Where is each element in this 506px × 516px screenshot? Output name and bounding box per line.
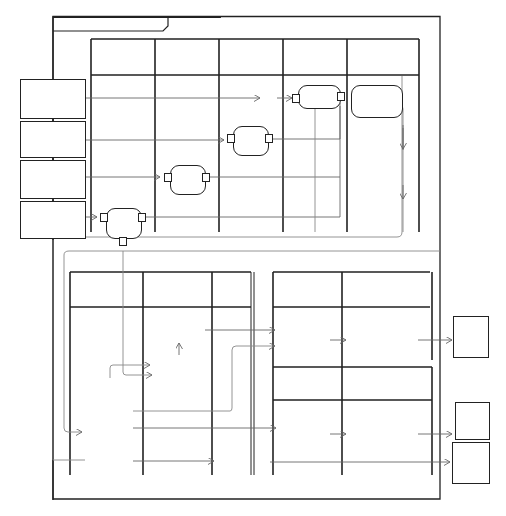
partition-alarm [212,272,251,307]
partition-external-sensor [91,39,155,75]
diagram-edges [0,0,506,516]
partition-system-controller [70,272,143,307]
pin-sense-entry-in [164,173,172,182]
param-exit-window-door-state[interactable] [20,79,86,119]
pin-sense-external-sensed-output [119,237,127,246]
pin-sense-internal-in [227,134,235,143]
action-sense-entry[interactable] [170,165,206,195]
pin-sense-external-out [138,213,146,222]
action-process-intruder-detection[interactable] [351,85,403,118]
partition-occupant-if-mgr [342,367,432,400]
param-entry-window-door-state[interactable] [20,160,86,199]
pin-sense-external-in [100,213,108,222]
pin-sense-exit-out [337,92,345,101]
partition-site-status-mgr [273,367,342,400]
partition-alert-validation-mgr [273,272,342,307]
pin-sense-exit-in [292,94,300,103]
partition-emergency-services-if-mgr [342,272,432,307]
param-external-source-signature[interactable] [20,201,86,239]
partition-event-detection-mgr [347,39,419,75]
param-alarm-signal[interactable] [452,442,490,484]
partition-internal-sensor [219,39,283,75]
action-sense-exit[interactable] [298,85,341,109]
partition-exit-sensor [283,39,347,75]
pin-sense-entry-out [202,173,210,182]
param-internal-source-signature[interactable] [20,121,86,158]
action-sense-internal[interactable] [233,126,269,156]
action-sense-external[interactable] [106,208,142,239]
param-site-status[interactable] [455,402,490,440]
partition-sensor-data-recorder [143,272,212,307]
partition-entry-sensor [155,39,219,75]
param-alert-status[interactable] [453,316,489,358]
pin-sense-internal-out [265,134,273,143]
